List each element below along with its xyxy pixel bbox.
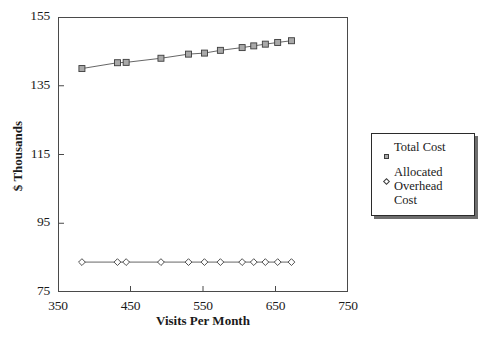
square-data-marker (158, 55, 164, 61)
square-data-marker (275, 39, 281, 45)
page-footer-artifact (4, 333, 334, 342)
square-data-marker (186, 51, 192, 57)
diamond-data-marker (274, 259, 281, 266)
diamond-data-marker (288, 259, 295, 266)
diamond-data-marker (250, 259, 257, 266)
square-data-marker (79, 66, 85, 72)
diamond-data-marker (201, 259, 208, 266)
square-marker-icon (379, 140, 393, 163)
diamond-data-marker (262, 259, 269, 266)
diamond-data-marker (239, 259, 246, 266)
diamond-marker-icon (379, 165, 393, 188)
x-tick-label: 350 (28, 298, 88, 314)
x-tick-label: 650 (246, 298, 306, 314)
diamond-data-marker (123, 259, 130, 266)
y-tick-label: 75 (6, 283, 50, 299)
x-tick-label: 450 (101, 298, 161, 314)
square-data-marker (251, 43, 257, 49)
y-tick-label: 155 (6, 8, 50, 24)
square-data-marker (114, 60, 120, 66)
square-data-marker (123, 59, 129, 65)
square-data-marker (201, 50, 207, 56)
chart-legend: Total Cost Allocated Overhead Cost (371, 133, 475, 216)
square-data-marker (239, 45, 245, 51)
line-chart: 7595115135155 350450550650750 $ Thousand… (0, 0, 482, 343)
square-data-marker (262, 41, 268, 47)
y-axis-title: $ Thousands (10, 91, 26, 221)
diamond-data-marker (114, 259, 121, 266)
legend-label-total-cost: Total Cost (393, 140, 446, 154)
diamond-data-marker (185, 259, 192, 266)
square-data-marker (217, 47, 223, 53)
diamond-data-marker (79, 259, 86, 266)
legend-label-allocated-overhead-cost: Allocated Overhead Cost (393, 165, 468, 207)
data-series-group (79, 38, 295, 266)
legend-item-total-cost: Total Cost (379, 140, 468, 163)
legend-item-allocated-overhead-cost: Allocated Overhead Cost (379, 165, 468, 207)
diamond-data-marker (217, 259, 224, 266)
x-axis-title: Visits Per Month (143, 313, 263, 329)
x-tick-label: 550 (173, 298, 233, 314)
square-data-marker (288, 38, 294, 44)
diamond-data-marker (158, 259, 165, 266)
x-tick-label: 750 (318, 298, 378, 314)
